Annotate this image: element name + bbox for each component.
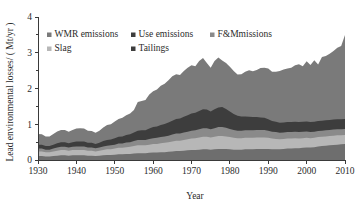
x-tick-label: 1930 xyxy=(29,166,48,176)
y-axis-title: Lead environmental losses/ ( Mt/yr ) xyxy=(5,22,16,161)
legend-label: Use emissions xyxy=(139,29,194,39)
y-tick-label: 2 xyxy=(27,84,32,94)
legend-label: Tailings xyxy=(139,43,170,53)
y-tick-label: 1 xyxy=(27,120,32,130)
y-tick-label: 3 xyxy=(27,48,32,58)
legend-swatch xyxy=(47,33,52,38)
x-tick-label: 1960 xyxy=(144,166,163,176)
y-tick-label: 4 xyxy=(27,12,32,22)
stacked-area-chart: 0123419301940195019601970198019902000201… xyxy=(0,0,360,203)
y-tick-label: 0 xyxy=(27,155,32,165)
legend-swatch xyxy=(47,47,52,52)
x-tick-label: 1940 xyxy=(67,166,86,176)
legend-label: Slag xyxy=(55,43,72,53)
legend-swatch xyxy=(210,33,215,38)
x-tick-label: 1970 xyxy=(182,166,201,176)
x-tick-label: 1980 xyxy=(220,166,239,176)
x-axis-title: Year xyxy=(186,191,204,201)
x-tick-label: 2000 xyxy=(297,166,316,176)
chart-figure: 0123419301940195019601970198019902000201… xyxy=(0,0,360,203)
legend-swatch xyxy=(131,33,136,38)
chart-legend: WMR emissionsUse emissionsF&MmissionsSla… xyxy=(47,29,272,53)
x-tick-label: 1990 xyxy=(259,166,278,176)
legend-label: WMR emissions xyxy=(55,29,119,39)
legend-label: F&Mmissions xyxy=(218,29,273,39)
legend-swatch xyxy=(131,47,136,52)
series-areas xyxy=(38,35,345,160)
x-tick-label: 2010 xyxy=(336,166,355,176)
x-tick-label: 1950 xyxy=(105,166,124,176)
